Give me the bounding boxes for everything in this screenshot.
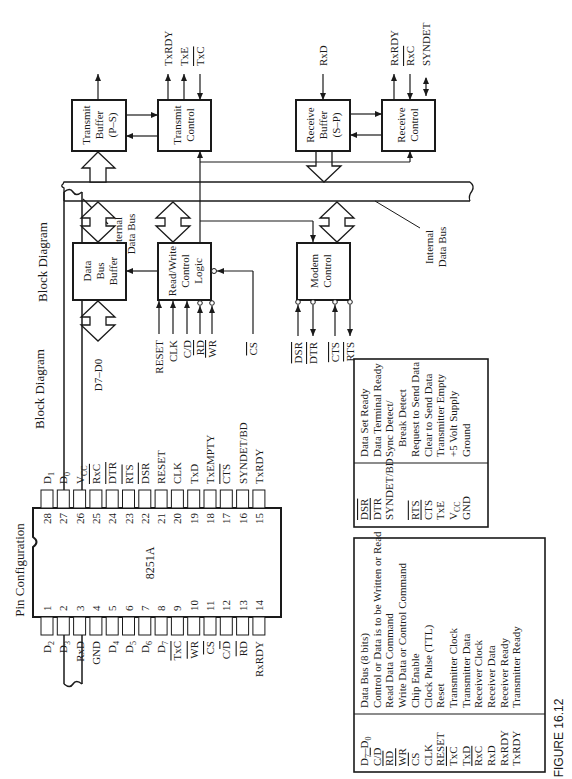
svg-text:18: 18	[204, 513, 216, 525]
svg-text:12: 12	[220, 600, 232, 611]
svg-text:3: 3	[74, 605, 86, 611]
svg-text:23: 23	[123, 513, 135, 525]
svg-text:Receive: Receive	[395, 107, 407, 143]
svg-text:Modem: Modem	[308, 253, 320, 288]
pin-10: 10WR	[188, 600, 200, 659]
svg-text:Control: Control	[321, 254, 333, 288]
pin-name-15: TxRDY	[253, 449, 265, 485]
svg-text:TxD: TxD	[460, 746, 472, 766]
svg-text:17: 17	[220, 513, 232, 525]
svg-text:(S–P): (S–P)	[330, 112, 343, 137]
svg-text:Receiver Ready: Receiver Ready	[498, 638, 510, 708]
pin-configuration-title: Pin Configuration	[12, 523, 27, 617]
svg-text:Transmit: Transmit	[80, 105, 92, 144]
pin-name-6: D5	[123, 641, 138, 653]
pin-names-row: CLKClock Pulse (TTL)	[422, 625, 435, 766]
svg-text:DTR: DTR	[307, 341, 319, 364]
svg-text:20: 20	[171, 513, 183, 525]
pin-name-1: D2	[41, 641, 56, 653]
pin-names-row: TxRDYTransmitter Ready	[510, 626, 522, 766]
svg-text:C/D: C/D	[181, 340, 193, 358]
pin-12: 12C/D	[220, 600, 232, 659]
svg-text:26: 26	[74, 513, 86, 525]
pin-name-5: D4	[106, 641, 121, 653]
pin-name-12: C/D	[220, 641, 232, 659]
svg-text:RxD: RxD	[317, 45, 329, 66]
svg-text:RxC: RxC	[404, 46, 416, 66]
rw-control-logic-block: Read/Write Control Logic CS	[158, 243, 259, 355]
svg-text:Control or Data is to be Writt: Control or Data is to be Written or Read	[371, 531, 383, 708]
pin-name-23: RTS	[123, 464, 135, 484]
pin-name-17: CTS	[220, 464, 232, 484]
pin-name-25: RxC	[90, 464, 102, 484]
svg-text:2: 2	[57, 606, 69, 612]
pin-name-16: SYNDET/BD	[237, 422, 249, 484]
svg-text:22: 22	[139, 513, 151, 524]
pin-name-11: CS	[204, 641, 216, 654]
svg-text:Transmitter Empty: Transmitter Empty	[434, 373, 446, 457]
svg-text:8: 8	[155, 605, 167, 611]
svg-text:CS: CS	[247, 342, 259, 355]
pin-names-table-right: DSRData Set ReadyDTRData Terminal ReadyS…	[354, 359, 488, 527]
svg-text:Transmitter Ready: Transmitter Ready	[510, 626, 522, 708]
pin-names-row: DSRData Set Ready	[358, 388, 370, 520]
pin-names-row: TxDTransmitter Data	[460, 633, 472, 766]
svg-text:+5 Volt Supply: +5 Volt Supply	[447, 390, 459, 457]
svg-text:TxC: TxC	[194, 46, 206, 66]
rw-inputs: RESET CLK C/D RD WR	[153, 301, 218, 374]
svg-text:CLK: CLK	[167, 340, 179, 362]
pin-name-7: D6	[139, 641, 154, 653]
svg-text:4: 4	[90, 605, 102, 611]
svg-text:Read/Write: Read/Write	[166, 246, 178, 296]
svg-text:Request to Send Data: Request to Send Data	[409, 362, 421, 457]
svg-text:7: 7	[139, 605, 151, 611]
svg-text:Data Set Ready: Data Set Ready	[358, 388, 370, 457]
svg-text:Clock Pulse (TTL): Clock Pulse (TTL)	[422, 625, 435, 708]
svg-text:RxC: RxC	[472, 746, 484, 766]
svg-text:GND: GND	[460, 496, 472, 520]
svg-text:13: 13	[237, 600, 249, 612]
pin-23: 23RTS	[123, 464, 135, 524]
pin-11: 11CS	[204, 600, 216, 654]
pin-names-row: RxCReceiver Clock	[472, 639, 484, 766]
transmit-buffer-block: Transmit Buffer (P–S)	[72, 74, 126, 151]
svg-text:Write Data or Control Command: Write Data or Control Command	[396, 563, 408, 708]
svg-text:C/D: C/D	[371, 748, 383, 766]
figure-label: FIGURE 16.12	[552, 698, 566, 777]
svg-text:Break Detect: Break Detect	[396, 389, 408, 447]
pin-names-row: Break Detect	[396, 389, 408, 447]
svg-text:Data: Data	[81, 261, 93, 282]
svg-text:5: 5	[106, 605, 118, 611]
svg-text:TxRDY: TxRDY	[510, 731, 522, 767]
svg-text:Transmitter Data: Transmitter Data	[460, 633, 472, 708]
pin-name-14: RxRDY	[253, 641, 265, 677]
svg-text:D7–D0: D7–D0	[92, 358, 104, 391]
svg-text:RD: RD	[194, 340, 206, 355]
svg-text:RTS: RTS	[409, 500, 421, 520]
pin-name-28: D1	[41, 472, 56, 484]
pin-name-19: TxD	[188, 464, 200, 484]
svg-text:16: 16	[237, 513, 249, 525]
pin-names-row: RxRDYReceiver Ready	[498, 638, 510, 766]
svg-text:Internal: Internal	[423, 230, 435, 264]
pin-name-27: D0	[57, 472, 72, 484]
svg-text:Buffer: Buffer	[93, 110, 105, 139]
pin-24: 24DTR	[106, 461, 118, 524]
pin-name-18: TxEMPTY	[204, 434, 216, 484]
pin-22: 22DSR	[139, 462, 151, 524]
svg-text:Buffer: Buffer	[317, 110, 329, 139]
svg-text:Reset: Reset	[434, 684, 446, 708]
receive-buffer-block: Receive Buffer (S–P) RxD	[296, 45, 350, 151]
pin-name-10: WR	[188, 640, 200, 658]
pin-name-26: VCC	[74, 465, 89, 484]
chip-label: 8251A	[143, 546, 157, 579]
pin-20: 20CLK	[171, 462, 183, 524]
pin-name-9: TxC	[171, 641, 183, 661]
svg-text:1: 1	[41, 606, 53, 612]
pin-name-8: D7	[155, 641, 170, 653]
svg-text:Control: Control	[179, 254, 191, 288]
pin-name-4: GND	[90, 641, 102, 665]
pin-names-row: SYNDET/BDSync Detect/	[383, 400, 395, 520]
svg-text:Data Bus: Data Bus	[436, 227, 448, 268]
svg-text:Transmitter Clock: Transmitter Clock	[447, 628, 459, 708]
